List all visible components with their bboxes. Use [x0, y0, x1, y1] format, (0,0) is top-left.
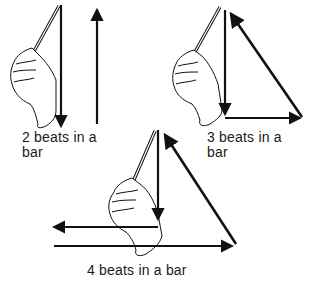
four-beats-label-line1: 4 beats in a bar: [87, 263, 187, 278]
two-beats-pattern: [11, 5, 97, 128]
three-beats-label-line1: 3 beats in a: [207, 130, 282, 145]
three-beats-pattern: [173, 7, 302, 126]
diagonal-up-arrow: [231, 14, 302, 117]
baton-icon: [133, 131, 155, 182]
baton-icon: [33, 6, 59, 53]
hand-icon: [11, 48, 56, 128]
four-beats-label: 4 beats in a bar: [87, 263, 187, 278]
two-beats-label: 2 beats in a bar: [22, 130, 97, 160]
three-beats-label: 3 beats in a bar: [207, 130, 282, 160]
two-beats-label-line2: bar: [22, 145, 97, 160]
three-beats-label-line2: bar: [207, 145, 282, 160]
hand-icon: [109, 178, 162, 256]
baton-icon: [195, 7, 220, 52]
hand-icon: [173, 50, 222, 126]
two-beats-label-line1: 2 beats in a: [22, 130, 97, 145]
